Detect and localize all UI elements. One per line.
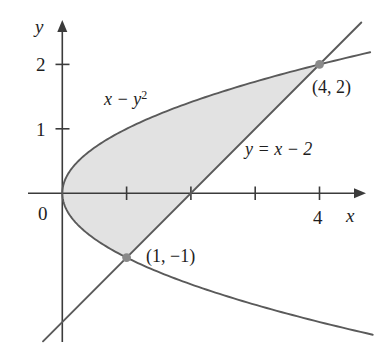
x-tick-label-4: 4: [313, 207, 323, 228]
parabola-label-base: x − y: [103, 89, 141, 109]
point-label-upper: (4, 2): [312, 77, 351, 98]
math-figure: y x 0 2 1 4 x − y2 y = x − 2 (4, 2) (1, …: [0, 0, 390, 362]
point-dot-upper: [315, 60, 324, 69]
point-label-lower: (1, −1): [146, 246, 195, 267]
x-axis-label: x: [345, 205, 355, 226]
y-axis-label: y: [33, 16, 44, 37]
origin-label: 0: [38, 203, 48, 224]
line-label: y = x − 2: [243, 139, 312, 159]
y-tick-label-1: 1: [36, 119, 46, 140]
region-fill: [62, 64, 319, 257]
y-tick-label-2: 2: [36, 54, 46, 75]
parabola-label: x − y2: [103, 88, 147, 109]
parabola-label-exponent: 2: [141, 88, 147, 102]
point-dot-lower: [122, 253, 131, 262]
